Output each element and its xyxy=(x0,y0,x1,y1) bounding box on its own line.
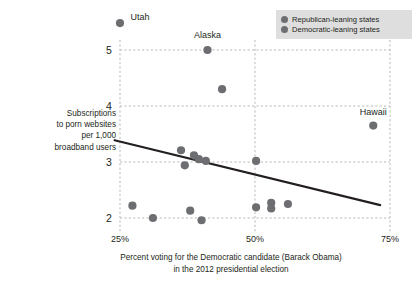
gridlines xyxy=(120,40,390,232)
data-point-2[interactable] xyxy=(218,85,226,93)
data-point-14[interactable] xyxy=(252,203,260,211)
y-axis-label-line-1: Subscriptions xyxy=(20,108,116,119)
legend-marker-icon-republican xyxy=(281,16,288,23)
y-axis-label-line-2: to porn websites xyxy=(20,119,116,130)
y-axis-label: Subscriptions to porn websites per 1,000… xyxy=(20,108,116,153)
legend-label-democratic: Democratic-leaning states xyxy=(292,25,380,34)
data-point-17[interactable] xyxy=(284,200,292,208)
data-point-12[interactable] xyxy=(186,207,194,215)
point-label-alaska: Alaska xyxy=(194,30,221,40)
data-points xyxy=(116,19,377,224)
data-point-alaska[interactable] xyxy=(203,46,211,54)
y-tick-label-2: 2 xyxy=(106,212,112,224)
legend-label-republican: Republican-leaning states xyxy=(292,15,379,24)
x-axis-label-line-1: Percent voting for the Democratic candid… xyxy=(66,252,396,264)
legend-item-democratic[interactable]: Democratic-leaning states xyxy=(281,25,407,34)
legend-marker-icon-democratic xyxy=(281,26,288,33)
x-tick-label-75%: 75% xyxy=(381,234,399,244)
data-point-16[interactable] xyxy=(267,204,275,212)
x-tick-label-25%: 25% xyxy=(111,234,129,244)
y-tick-label-4: 4 xyxy=(106,100,112,112)
point-label-utah: Utah xyxy=(130,12,149,22)
y-tick-label-5: 5 xyxy=(106,44,112,56)
data-point-11[interactable] xyxy=(149,214,157,222)
data-point-8[interactable] xyxy=(181,161,189,169)
scatter-chart: Subscriptions to porn websites per 1,000… xyxy=(0,0,420,295)
y-axis-label-line-3: per 1,000 xyxy=(20,130,116,141)
x-axis-label-line-2: in the 2012 presidential election xyxy=(66,264,396,276)
y-axis-label-line-4: broadband users xyxy=(20,142,116,153)
trendline xyxy=(115,140,381,205)
data-point-hawaii[interactable] xyxy=(369,122,377,130)
data-point-4[interactable] xyxy=(177,146,185,154)
point-label-hawaii: Hawaii xyxy=(360,107,387,117)
data-point-13[interactable] xyxy=(197,216,205,224)
legend-item-republican[interactable]: Republican-leaning states xyxy=(281,15,407,24)
data-point-9[interactable] xyxy=(252,157,260,165)
x-axis-label: Percent voting for the Democratic candid… xyxy=(66,252,396,275)
x-tick-label-50%: 50% xyxy=(246,234,264,244)
data-point-7[interactable] xyxy=(202,157,210,165)
data-point-6[interactable] xyxy=(195,155,203,163)
chart-legend: Republican-leaning states Democratic-lea… xyxy=(276,10,412,39)
data-point-10[interactable] xyxy=(128,202,136,210)
data-point-utah[interactable] xyxy=(116,19,124,27)
y-tick-label-3: 3 xyxy=(106,156,112,168)
